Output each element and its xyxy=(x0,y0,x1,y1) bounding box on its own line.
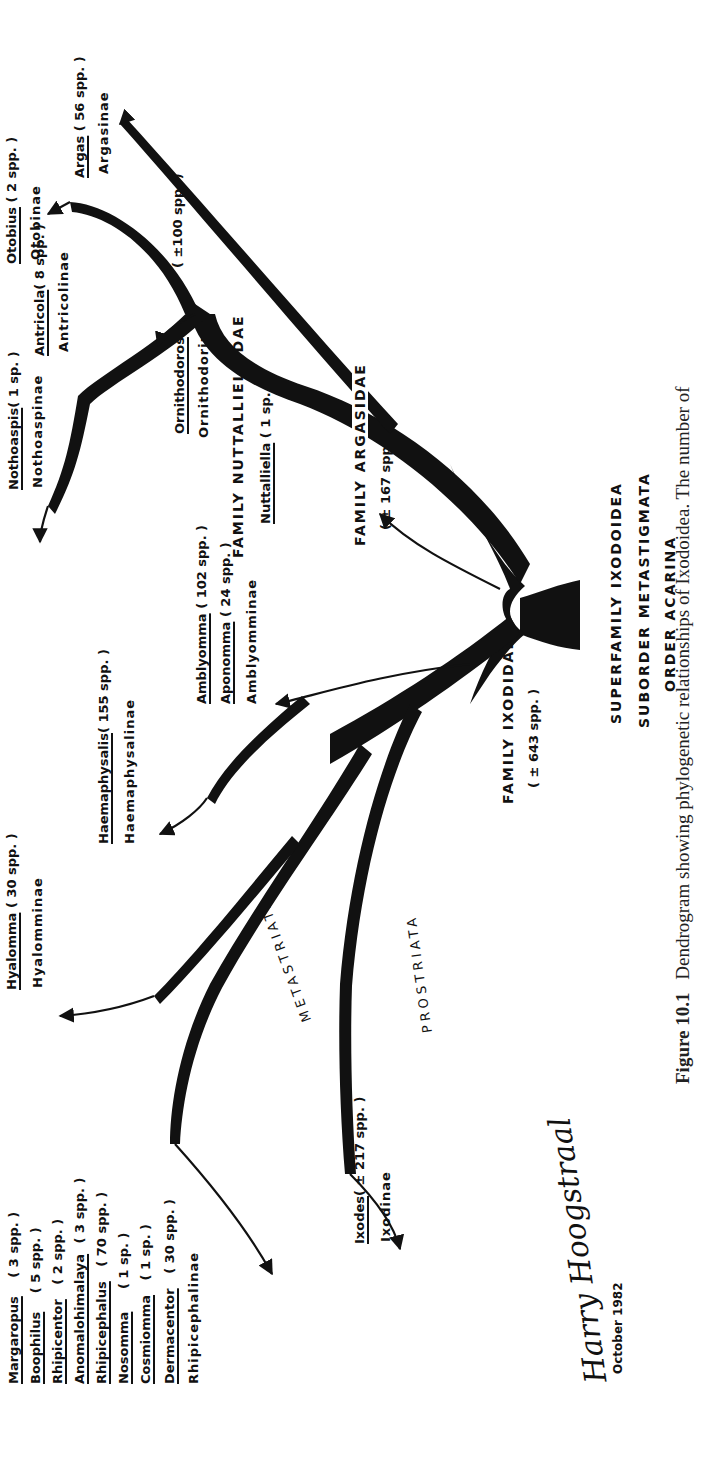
figure-date: October 1982 xyxy=(610,1282,626,1374)
figure-number: Figure 10.1 xyxy=(672,993,693,1084)
argasidae-count: ( ± 167 spp. ) xyxy=(378,431,394,530)
figure-caption: Figure 10.1 Dendrogram showing phylogene… xyxy=(672,387,694,1085)
species-count: ( 30 spp. ) xyxy=(4,833,19,908)
margaropus-genus: Margaropus ( 3 spp. ) xyxy=(6,1212,22,1384)
nuttalliella-genus: Nuttalliella ( 1 sp. ) xyxy=(258,382,274,524)
anomalohimalaya-genus: Anomalohimalaya ( 3 spp. ) xyxy=(72,1178,88,1384)
arrow-otobius xyxy=(48,202,70,214)
figure-page: Argas ( 56 spp. ) Argasinae Otobius ( 2 … xyxy=(0,0,704,1464)
dermacentor-genus: Dermacentor ( 30 spp. ) xyxy=(162,1199,178,1384)
hyalomma-genus: Hyalomma ( 30 spp. ) xyxy=(4,833,20,990)
dendrogram-landscape: Argas ( 56 spp. ) Argasinae Otobius ( 2 … xyxy=(0,0,704,1464)
species-count: ( 1 sp. ) xyxy=(258,382,273,443)
genus-name: Aponomma xyxy=(218,622,233,704)
ixodinae-subfamily: Ixodinae xyxy=(378,1171,394,1242)
species-count: ( 1 sp. ) xyxy=(6,351,21,408)
genus-name: Argas xyxy=(72,136,87,178)
genus-name: Dermacentor xyxy=(162,1288,177,1384)
genus-name: Rhipicentor xyxy=(50,1299,65,1384)
genus-name: Antricola xyxy=(32,290,47,356)
rhipicentor-genus: Rhipicentor ( 2 spp. ) xyxy=(50,1219,66,1384)
genus-name: Amblyomma xyxy=(194,613,209,704)
genus-name: Nosomma xyxy=(116,1312,131,1384)
species-count: ( 70 spp. ) xyxy=(94,1192,109,1267)
antricolinae-subfamily: Antricolinae xyxy=(56,251,72,352)
genus-name: Anomalohimalaya xyxy=(72,1254,87,1384)
species-count: ( 102 spp. ) xyxy=(194,525,209,609)
species-count: ( 3 spp. ) xyxy=(6,1212,21,1278)
species-count: ( 8 spp. ) xyxy=(32,224,47,290)
genus-name: Hyalomma xyxy=(4,913,19,990)
species-count: ( ± 217 spp. ) xyxy=(352,1097,367,1196)
genus-name: Rhipicephalus xyxy=(94,1281,109,1384)
rhipicephalinae-subfamily: Rhipicephalinae xyxy=(186,1252,202,1384)
otobius-genus: Otobius ( 2 spp. ) xyxy=(4,137,20,264)
genus-name: Nuttalliella xyxy=(258,443,273,524)
genus-name: Nothoaspis xyxy=(6,408,21,490)
species-count: ( 24 spp. ) xyxy=(218,542,233,617)
argas-genus: Argas ( 56 spp. ) xyxy=(72,56,88,178)
haemaphysalis-genus: Haemaphysalis( 155 spp. ) xyxy=(96,649,112,844)
genus-name: Cosmiomma xyxy=(138,1295,153,1384)
superfamily-label: SUPERFAMILY IXODOIDEA xyxy=(608,482,624,724)
arrow-nothoaspis xyxy=(40,506,48,542)
rhipicephalus-genus: Rhipicephalus ( 70 spp. ) xyxy=(94,1192,110,1384)
arrow-haemaphysalinae xyxy=(160,798,207,834)
nothoaspis-genus: Nothoaspis( 1 sp. ) xyxy=(6,351,22,490)
ornithodoros-count: ( ±100 spp. ) xyxy=(170,173,186,268)
species-count: ( 2 spp. ) xyxy=(50,1219,65,1285)
haemaphysalinae-subfamily: Haemaphysalinae xyxy=(122,699,138,844)
nothoaspinae-subfamily: Nothoaspinae xyxy=(30,375,46,488)
genus-name: Ixodes xyxy=(352,1196,367,1244)
arrow-hyalomminae xyxy=(60,996,154,1016)
cosmiomma-genus: Cosmiomma ( 1 sp. ) xyxy=(138,1224,154,1384)
aponomma-genus: Aponomma ( 24 spp. ) xyxy=(218,542,234,704)
species-count: ( 2 spp. ) xyxy=(4,137,19,203)
genus-name: Otobius xyxy=(4,207,19,264)
species-count: ( 3 spp. ) xyxy=(72,1178,87,1244)
nosomma-genus: Nosomma ( 1 sp. ) xyxy=(116,1233,132,1384)
root-trunk xyxy=(520,580,580,650)
boophilus-genus: Boophilus ( 5 spp. ) xyxy=(28,1227,44,1384)
species-count: ( 30 spp. ) xyxy=(162,1199,177,1274)
ixodes-genus: Ixodes( ± 217 spp. ) xyxy=(352,1097,368,1244)
genus-name: Boophilus xyxy=(28,1312,43,1384)
family-nuttalliellidae: FAMILY NUTTALLIELLIDAE xyxy=(230,314,246,558)
species-count: ( 56 spp. ) xyxy=(72,56,87,131)
ixodidae-count: ( ± 643 spp. ) xyxy=(526,689,542,788)
ixodidae-limb xyxy=(330,616,520,764)
species-count: ( 1 sp. ) xyxy=(138,1224,153,1281)
ornithodorinae-subfamily: Ornithodorinae xyxy=(196,312,212,438)
genus-name: Margaropus xyxy=(6,1296,21,1384)
caption-text: Dendrogram showing phylogenetic relation… xyxy=(672,387,693,980)
species-count: ( 1 sp. ) xyxy=(116,1233,131,1290)
hyalomminae-subfamily: Hyalomminae xyxy=(30,877,46,988)
species-count: ( 5 spp. ) xyxy=(28,1227,43,1293)
antricola-genus: Antricola( 8 spp. ) xyxy=(32,224,48,356)
ornithodoros-genus: Ornithodoros xyxy=(172,337,188,434)
genus-name: Haemaphysalis xyxy=(96,733,111,844)
argasinae-subfamily: Argasinae xyxy=(96,91,112,174)
family-argasidae: FAMILY ARGASIDAE xyxy=(352,363,368,546)
haemaphysalis-limb xyxy=(207,696,310,804)
family-ixodidae: FAMILY IXODIDAE xyxy=(500,638,516,804)
amblyomma-genus: Amblyomma ( 102 spp. ) xyxy=(194,525,210,704)
amblyomminae-subfamily: Amblyomminae xyxy=(244,579,260,704)
species-count: ( 155 spp. ) xyxy=(96,649,111,733)
suborder-label: SUBORDER METASTIGMATA xyxy=(636,472,652,728)
